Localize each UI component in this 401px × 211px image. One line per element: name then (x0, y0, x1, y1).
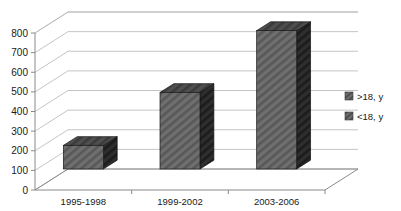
y-axis-ticks: 0100200300400500600700800 (11, 28, 35, 196)
category-label: 1999-2002 (157, 196, 202, 207)
bars-layer (63, 22, 310, 169)
y-tick-label: 500 (11, 86, 28, 97)
bar-front-face (63, 145, 103, 169)
bar-column (257, 22, 311, 169)
chart-container: 0100200300400500600700800 1995-19981999-… (0, 0, 401, 211)
y-tick-label: 800 (11, 28, 28, 39)
bar-front-face (160, 92, 200, 169)
bar-chart-3d: 0100200300400500600700800 1995-19981999-… (0, 0, 401, 211)
bar-front-face (257, 31, 297, 169)
legend-swatch (345, 92, 353, 100)
legend-item[interactable]: >18, y (345, 91, 383, 102)
bar-column (160, 84, 214, 169)
category-labels: 1995-19981999-20022003-2006 (61, 190, 325, 207)
legend-label: <18, y (357, 111, 383, 122)
legend-swatch (345, 112, 353, 120)
y-tick-label: 200 (11, 145, 28, 156)
category-label: 2003-2006 (254, 196, 299, 207)
bar-side-face (200, 84, 214, 169)
y-tick-label: 600 (11, 67, 28, 78)
category-label: 1995-1998 (61, 196, 106, 207)
legend-item[interactable]: <18, y (345, 111, 383, 122)
bar-column (63, 137, 117, 169)
y-tick-label: 300 (11, 126, 28, 137)
chart-legend: >18, y<18, y (345, 91, 383, 122)
bar-side-face (297, 22, 311, 169)
y-tick-label: 400 (11, 106, 28, 117)
y-tick-label: 700 (11, 47, 28, 58)
legend-label: >18, y (357, 91, 383, 102)
y-tick-label: 100 (11, 165, 28, 176)
y-tick-label: 0 (22, 185, 28, 196)
